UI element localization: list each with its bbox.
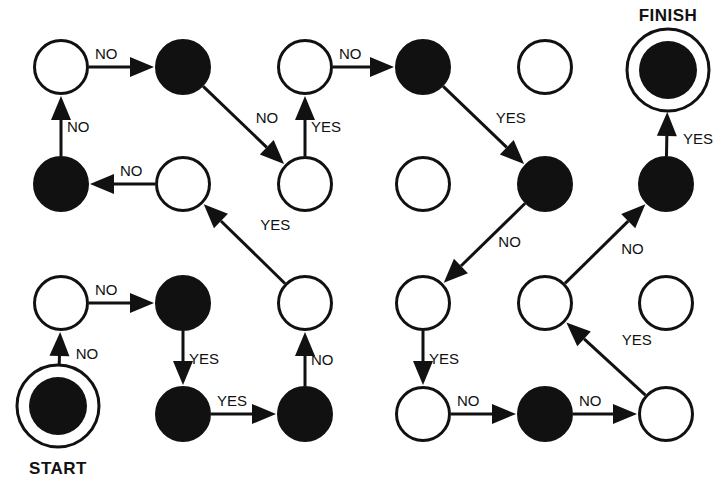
edge-label: NO xyxy=(76,345,99,362)
filled-node xyxy=(157,388,210,441)
filled-node xyxy=(157,277,210,330)
edge-label: YES xyxy=(189,350,219,367)
empty-node xyxy=(397,158,450,211)
edge-label: NO xyxy=(579,392,602,409)
edge-label: YES xyxy=(622,331,652,348)
edge-label: YES xyxy=(217,392,247,409)
empty-node xyxy=(519,41,572,94)
arrowhead-icon xyxy=(130,293,154,313)
arrow-shaft xyxy=(565,221,628,283)
edge-label: YES xyxy=(496,109,526,126)
edges-layer xyxy=(49,57,676,424)
arrowhead-icon xyxy=(657,112,677,136)
empty-node xyxy=(640,388,693,441)
edge-arrow xyxy=(49,332,69,365)
empty-node xyxy=(279,158,332,211)
finish-inner-disk xyxy=(639,41,697,99)
arrowhead-icon xyxy=(613,404,637,424)
maze-diagram: NONOYESYESNOYESNONONONOYESNOYESNOYESNONO… xyxy=(0,0,726,488)
filled-node xyxy=(157,41,210,94)
arrowhead-icon xyxy=(252,404,276,424)
empty-node xyxy=(519,277,572,330)
finish-label: FINISH xyxy=(639,6,698,25)
filled-node xyxy=(640,158,693,211)
edge-label: YES xyxy=(311,118,341,135)
arrowhead-icon xyxy=(51,96,71,120)
empty-node xyxy=(279,277,332,330)
empty-node xyxy=(35,277,88,330)
edge-label: NO xyxy=(95,281,118,298)
empty-node xyxy=(397,388,450,441)
edge-label: YES xyxy=(683,130,713,147)
filled-node xyxy=(279,388,332,441)
labels-layer: NONOYESYESNOYESNONONONOYESNOYESNOYESNONO… xyxy=(67,45,713,409)
arrowhead-icon xyxy=(130,57,154,77)
filled-node xyxy=(519,158,572,211)
empty-node xyxy=(640,277,693,330)
edge-label: YES xyxy=(260,216,290,233)
edge-label: NO xyxy=(95,45,118,62)
finish-node xyxy=(627,29,709,111)
edge-label: NO xyxy=(256,109,279,126)
edge-label: YES xyxy=(429,350,459,367)
edge-label: NO xyxy=(621,240,644,257)
filled-node xyxy=(35,158,88,211)
edge-label: NO xyxy=(498,233,520,250)
arrowhead-icon xyxy=(295,96,315,120)
filled-node xyxy=(519,388,572,441)
edge-label: NO xyxy=(339,45,362,62)
empty-node xyxy=(35,41,88,94)
start-inner-disk xyxy=(29,377,87,435)
edge-label: NO xyxy=(120,162,143,179)
arrowhead-icon xyxy=(370,57,394,77)
edge-arrow xyxy=(657,112,677,156)
arrowhead-icon xyxy=(492,404,516,424)
edge-label: NO xyxy=(457,392,480,409)
start-node xyxy=(17,365,99,447)
edge-label: NO xyxy=(311,351,334,368)
empty-node xyxy=(157,158,210,211)
empty-node xyxy=(397,277,450,330)
empty-node xyxy=(279,41,332,94)
start-label: START xyxy=(29,459,87,478)
edge-label: NO xyxy=(67,118,90,135)
filled-node xyxy=(397,41,450,94)
arrowhead-icon xyxy=(90,174,114,194)
nodes-layer xyxy=(17,29,709,447)
arrowhead-icon xyxy=(49,332,69,356)
